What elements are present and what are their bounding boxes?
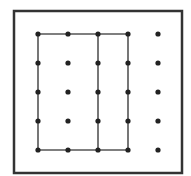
peg-dot — [65, 60, 70, 65]
peg-dot — [65, 31, 70, 36]
peg-dot — [65, 89, 70, 94]
peg-dot — [35, 31, 40, 36]
peg-dot — [125, 60, 130, 65]
peg-dot — [95, 31, 100, 36]
shape-lines — [38, 34, 128, 150]
peg-dot — [35, 89, 40, 94]
peg-dot — [35, 147, 40, 152]
peg-dot — [95, 118, 100, 123]
geoboard-diagram — [0, 0, 191, 176]
peg-dot — [155, 60, 160, 65]
rectangle — [38, 34, 128, 150]
peg-dot — [125, 118, 130, 123]
peg-dot — [155, 118, 160, 123]
peg-dot — [65, 118, 70, 123]
peg-dot — [95, 89, 100, 94]
peg-dot — [35, 60, 40, 65]
peg-dot — [65, 147, 70, 152]
peg-dot — [95, 60, 100, 65]
peg-dot — [95, 147, 100, 152]
peg-dot — [155, 31, 160, 36]
peg-dot — [125, 89, 130, 94]
peg-dot — [125, 31, 130, 36]
peg-dot — [125, 147, 130, 152]
peg-dot — [155, 89, 160, 94]
peg-dot — [155, 147, 160, 152]
peg-dot — [35, 118, 40, 123]
